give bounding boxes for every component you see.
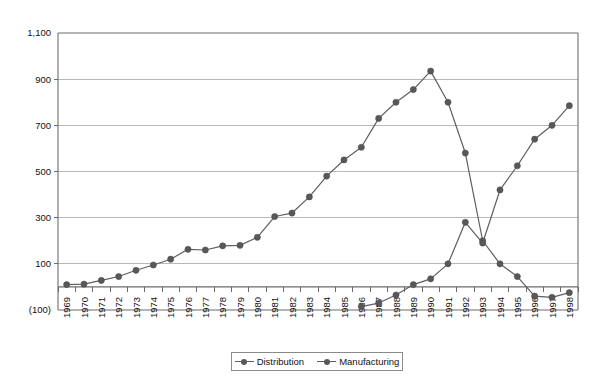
data-point[interactable] — [64, 282, 70, 288]
line-marker-icon — [235, 358, 254, 366]
data-point[interactable] — [341, 157, 347, 163]
line-marker-icon — [317, 358, 336, 366]
chart-canvas: (100)1003005007009001,100 19691970197119… — [0, 0, 604, 382]
legend-label-manufacturing: Manufacturing — [338, 357, 399, 367]
data-point[interactable] — [428, 68, 434, 74]
data-point[interactable] — [480, 240, 486, 246]
data-point[interactable] — [393, 292, 399, 298]
data-point[interactable] — [254, 234, 260, 240]
x-axis-tick-label: 1977 — [200, 297, 211, 318]
data-point[interactable] — [272, 213, 278, 219]
x-axis-tick-label: 1974 — [148, 297, 159, 318]
legend-label-distribution: Distribution — [256, 357, 305, 367]
x-axis-tick-label: 1976 — [183, 297, 194, 318]
data-point[interactable] — [566, 103, 572, 109]
y-axis-tick-label: 300 — [35, 212, 51, 223]
data-point[interactable] — [358, 303, 364, 309]
y-axis-tick-label: 500 — [35, 166, 51, 177]
y-axis-tick-label: 100 — [35, 258, 51, 269]
x-axis-tick-label: 1975 — [165, 297, 176, 318]
data-point[interactable] — [532, 136, 538, 142]
x-axis-tick-label: 1996 — [529, 297, 540, 318]
data-point[interactable] — [445, 99, 451, 105]
x-axis-tick-label: 1990 — [425, 297, 436, 318]
data-point[interactable] — [220, 243, 226, 249]
data-point[interactable] — [549, 294, 555, 300]
x-axis-tick-label: 1979 — [235, 297, 246, 318]
y-axis-tick-label: 700 — [35, 120, 51, 131]
x-axis-tick-label: 1982 — [287, 297, 298, 318]
data-point[interactable] — [306, 194, 312, 200]
chart-legend: Distribution Manufacturing — [231, 352, 403, 371]
x-axis-tick-label: 1985 — [339, 297, 350, 318]
y-axis-tick-label: 900 — [35, 74, 51, 85]
data-point[interactable] — [185, 246, 191, 252]
x-axis-tick-label: 1983 — [304, 297, 315, 318]
data-point[interactable] — [358, 144, 364, 150]
x-axis-tick-label: 1992 — [460, 297, 471, 318]
data-point[interactable] — [514, 163, 520, 169]
y-axis-tick-labels: (100)1003005007009001,100 — [27, 27, 51, 315]
x-axis-tick-label: 1970 — [79, 297, 90, 318]
x-axis-tick-label: 1984 — [321, 297, 332, 318]
x-axis-tick-label: 1971 — [96, 297, 107, 318]
data-point[interactable] — [98, 277, 104, 283]
x-axis-tick-label: 1994 — [495, 297, 506, 318]
data-point[interactable] — [81, 281, 87, 287]
line-chart: (100)1003005007009001,100 19691970197119… — [0, 0, 604, 382]
data-point[interactable] — [410, 86, 416, 92]
data-point[interactable] — [462, 219, 468, 225]
legend-item-manufacturing[interactable]: Manufacturing — [317, 357, 399, 367]
data-point[interactable] — [168, 256, 174, 262]
data-point[interactable] — [376, 115, 382, 121]
x-axis-tick-label: 1981 — [269, 297, 280, 318]
data-point[interactable] — [462, 150, 468, 156]
x-axis-tick-label: 1973 — [131, 297, 142, 318]
data-point[interactable] — [410, 282, 416, 288]
x-axis-tick-label: 1993 — [477, 297, 488, 318]
x-axis-tick-label: 1995 — [512, 297, 523, 318]
y-axis-tick-marks — [54, 79, 58, 264]
y-axis-tick-label: (100) — [29, 304, 51, 315]
data-point[interactable] — [133, 267, 139, 273]
data-point[interactable] — [532, 293, 538, 299]
data-point[interactable] — [549, 122, 555, 128]
x-axis-tick-label: 1991 — [443, 297, 454, 318]
data-point[interactable] — [497, 187, 503, 193]
data-point[interactable] — [324, 173, 330, 179]
data-point[interactable] — [428, 276, 434, 282]
data-point[interactable] — [566, 290, 572, 296]
data-point[interactable] — [376, 300, 382, 306]
x-axis-tick-label: 1969 — [61, 297, 72, 318]
data-point[interactable] — [202, 247, 208, 253]
x-axis-tick-label: 1989 — [408, 297, 419, 318]
x-axis-tick-label: 1978 — [217, 297, 228, 318]
y-axis-tick-label: 1,100 — [27, 27, 51, 38]
data-point[interactable] — [497, 261, 503, 267]
x-axis-tick-label: 1988 — [391, 297, 402, 318]
legend-item-distribution[interactable]: Distribution — [235, 357, 305, 367]
x-axis-tick-label: 1972 — [113, 297, 124, 318]
data-point[interactable] — [445, 261, 451, 267]
data-point[interactable] — [289, 210, 295, 216]
data-point[interactable] — [116, 273, 122, 279]
x-axis-tick-label: 1998 — [564, 297, 575, 318]
data-point[interactable] — [237, 242, 243, 248]
data-point[interactable] — [150, 262, 156, 268]
data-point[interactable] — [393, 99, 399, 105]
x-axis-tick-label: 1980 — [252, 297, 263, 318]
data-point[interactable] — [514, 273, 520, 279]
